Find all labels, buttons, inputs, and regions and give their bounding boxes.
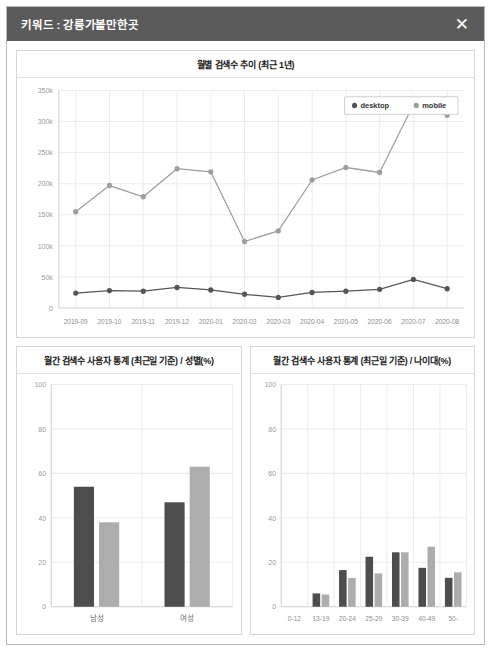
y-tick-label: 100k xyxy=(38,242,54,250)
modal-header: 키워드 : 강릉가볼만한곳 ✕ xyxy=(7,7,484,41)
x-tick-label: 2020-02 xyxy=(233,317,257,324)
data-point-desktop[interactable] xyxy=(411,277,416,282)
x-tick-label: 2019-12 xyxy=(165,317,189,324)
bar-desktop[interactable] xyxy=(74,487,94,607)
y-tick-label: 20 xyxy=(38,558,46,567)
y-tick-label: 60 xyxy=(268,469,276,478)
panel-title-age: 월간 검색수 사용자 통계 (최근일 기준) / 나이대(%) xyxy=(251,347,475,374)
bar-desktop[interactable] xyxy=(312,593,320,606)
data-point-mobile[interactable] xyxy=(309,177,314,182)
y-tick-label: 40 xyxy=(268,513,276,522)
data-point-mobile[interactable] xyxy=(276,228,281,233)
bar-mobile[interactable] xyxy=(321,595,329,607)
panel-gender-stats: 월간 검색수 사용자 통계 (최근일 기준) / 성별(%) 020406080… xyxy=(16,346,242,635)
bar-desktop[interactable] xyxy=(444,578,452,607)
y-tick-label: 80 xyxy=(268,425,276,434)
y-tick-label: 80 xyxy=(38,425,46,434)
y-tick-label: 250k xyxy=(38,149,54,157)
x-tick-label: 2020-08 xyxy=(435,317,459,324)
data-point-mobile[interactable] xyxy=(174,166,179,171)
data-point-desktop[interactable] xyxy=(343,289,348,294)
data-point-mobile[interactable] xyxy=(343,165,348,170)
x-tick-label: 2019-10 xyxy=(97,317,121,324)
page-title: 키워드 : 강릉가볼만한곳 xyxy=(21,16,139,32)
line-series-mobile xyxy=(76,105,447,242)
y-tick-label: 350k xyxy=(38,87,54,95)
y-tick-label: 300k xyxy=(38,118,54,126)
y-tick-label: 200k xyxy=(38,180,54,188)
bar-desktop[interactable] xyxy=(365,557,373,607)
x-tick-label: 2020-05 xyxy=(334,317,358,324)
x-tick-label: 2019-11 xyxy=(131,317,155,324)
chart-gender: 020406080100남성여성 xyxy=(17,374,241,634)
chart-monthly-trend: 050k100k150k200k250k300k350k2019-092019-… xyxy=(17,78,474,337)
panel-age-stats: 월간 검색수 사용자 통계 (최근일 기준) / 나이대(%) 02040608… xyxy=(250,346,476,635)
x-tick-label: 2020-07 xyxy=(401,317,425,324)
bar-mobile[interactable] xyxy=(401,552,409,606)
x-category-label: 여성 xyxy=(180,613,194,623)
x-category-label: 25-29 xyxy=(365,615,382,622)
chart-age: 0204060801000-1213-1920-2425-2930-3940-4… xyxy=(251,374,475,634)
bar-mobile[interactable] xyxy=(99,522,119,606)
x-tick-label: 2019-09 xyxy=(64,317,88,324)
line-series-desktop xyxy=(76,279,447,297)
data-point-desktop[interactable] xyxy=(73,290,78,295)
bar-mobile[interactable] xyxy=(190,467,210,607)
y-tick-label: 0 xyxy=(49,305,53,313)
data-point-desktop[interactable] xyxy=(276,295,281,300)
data-point-desktop[interactable] xyxy=(141,289,146,294)
bar-mobile[interactable] xyxy=(453,572,461,606)
x-category-label: 40-49 xyxy=(418,615,435,622)
y-tick-label: 60 xyxy=(38,469,46,478)
y-tick-label: 50k xyxy=(42,273,54,281)
data-point-desktop[interactable] xyxy=(242,292,247,297)
x-category-label: 20-24 xyxy=(338,615,355,622)
bar-desktop[interactable] xyxy=(164,502,184,606)
y-tick-label: 40 xyxy=(38,513,46,522)
data-point-mobile[interactable] xyxy=(73,209,78,214)
data-point-desktop[interactable] xyxy=(107,288,112,293)
data-point-desktop[interactable] xyxy=(174,285,179,290)
data-point-mobile[interactable] xyxy=(208,169,213,174)
panel-title-monthly-trend: 월별 검색수 추이 (최근 1년) xyxy=(17,51,474,78)
panel-title-gender: 월간 검색수 사용자 통계 (최근일 기준) / 성별(%) xyxy=(17,347,241,374)
y-tick-label: 20 xyxy=(268,558,276,567)
bar-mobile[interactable] xyxy=(374,573,382,606)
y-tick-label: 0 xyxy=(42,602,46,611)
bar-desktop[interactable] xyxy=(391,552,399,606)
keyword-stats-modal: 키워드 : 강릉가볼만한곳 ✕ 월별 검색수 추이 (최근 1년) 050k10… xyxy=(6,6,485,645)
bar-desktop[interactable] xyxy=(418,568,426,607)
bar-mobile[interactable] xyxy=(348,578,356,607)
legend-label-mobile[interactable]: mobile xyxy=(422,101,446,110)
panel-monthly-trend: 월별 검색수 추이 (최근 1년) 050k100k150k200k250k30… xyxy=(16,50,475,338)
legend-label-desktop[interactable]: desktop xyxy=(360,101,389,110)
data-point-mobile[interactable] xyxy=(107,183,112,188)
x-category-label: 남성 xyxy=(90,614,104,623)
data-point-mobile[interactable] xyxy=(141,194,146,199)
bottom-charts-row: 월간 검색수 사용자 통계 (최근일 기준) / 성별(%) 020406080… xyxy=(16,346,475,635)
y-tick-label: 150k xyxy=(38,211,54,219)
data-point-desktop[interactable] xyxy=(208,287,213,292)
x-tick-label: 2020-06 xyxy=(368,317,392,324)
data-point-desktop[interactable] xyxy=(309,290,314,295)
data-point-mobile[interactable] xyxy=(242,239,247,244)
legend-marker-mobile xyxy=(414,103,419,108)
y-tick-label: 100 xyxy=(264,380,276,389)
x-category-label: 30-39 xyxy=(391,615,408,622)
bar-desktop[interactable] xyxy=(339,570,347,607)
x-tick-label: 2020-01 xyxy=(199,317,223,324)
x-category-label: 50- xyxy=(448,615,458,622)
data-point-desktop[interactable] xyxy=(377,287,382,292)
legend-marker-desktop xyxy=(352,103,357,108)
bar-mobile[interactable] xyxy=(427,547,435,607)
x-category-label: 0-12 xyxy=(287,615,300,622)
data-point-mobile[interactable] xyxy=(377,170,382,175)
x-category-label: 13-19 xyxy=(312,615,329,622)
x-tick-label: 2020-03 xyxy=(266,317,290,324)
data-point-desktop[interactable] xyxy=(445,286,450,291)
y-tick-label: 0 xyxy=(272,602,276,611)
modal-body: 월별 검색수 추이 (최근 1년) 050k100k150k200k250k30… xyxy=(7,41,484,644)
x-tick-label: 2020-04 xyxy=(300,317,324,324)
close-icon[interactable]: ✕ xyxy=(452,14,472,35)
y-tick-label: 100 xyxy=(34,380,46,389)
